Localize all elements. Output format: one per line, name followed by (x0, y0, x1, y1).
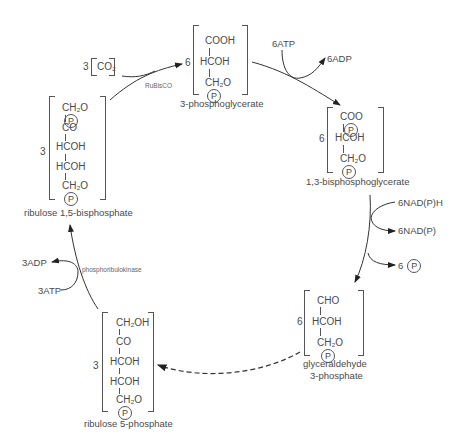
formula-text: COO (340, 111, 363, 122)
coefficient: 6 (319, 133, 325, 144)
bracket-left (102, 312, 108, 412)
bond (119, 348, 120, 354)
bond (343, 145, 344, 153)
bracket-right (378, 107, 384, 173)
bracket-left (193, 25, 199, 95)
bracket-right (242, 25, 248, 95)
bracket-right (358, 290, 364, 356)
bond (209, 69, 210, 77)
formula-line: HCOH (56, 161, 85, 173)
bracket-right (109, 58, 115, 76)
bond (343, 124, 344, 132)
formula-line: HCOH (110, 356, 139, 368)
molecule-name: ribulose 5-phosphate (84, 418, 173, 429)
molecule-name: 1,3-bisphosphoglycerate (306, 176, 410, 187)
cofactor-atp-in: 6ATP (272, 38, 295, 49)
bond (320, 328, 321, 336)
bond (119, 329, 120, 335)
pi-coefficient: 6 (398, 260, 403, 271)
bracket-left (304, 290, 310, 356)
bond (119, 368, 120, 374)
formula-line: CO (62, 122, 77, 134)
enzyme-phosphoribulokinase: phosphoribulokinase (82, 266, 142, 273)
formula-line: CO (116, 336, 131, 348)
cofactor-pi-out: 6P (398, 259, 421, 273)
formula-line: COOH (205, 35, 235, 47)
formula-text: CH₂O (62, 102, 88, 113)
coefficient: 3 (93, 360, 99, 371)
bond (65, 173, 66, 180)
cycle-arrows (0, 0, 460, 448)
formula-text: CH₂O (62, 180, 88, 191)
bracket-right (100, 96, 106, 200)
formula-text: CH₂O (317, 337, 343, 348)
co2-coefficient: 3 (83, 61, 89, 72)
bracket-left (327, 107, 333, 173)
formula-text: CH₂O (205, 77, 231, 88)
formula-line: CHO (317, 295, 339, 307)
formula-line: HCOH (335, 132, 364, 144)
bond (65, 134, 66, 141)
molecule-name-line2: 3-phosphate (310, 370, 363, 381)
formula-line: CH₂OP (116, 394, 142, 420)
phosphate-icon: P (64, 192, 78, 206)
bond (65, 115, 66, 122)
molecule-name-line1: glyceraldehyde (303, 358, 367, 369)
formula-line: HCOH (110, 376, 139, 388)
bond (209, 48, 210, 56)
coefficient: 6 (297, 316, 303, 327)
cofactor-adp-out: 6ADP (327, 53, 352, 64)
cofactor-nadp-out: 6NAD(P) (398, 225, 436, 236)
formula-text: CH₂O (116, 394, 142, 405)
cofactor-3atp-in: 3ATP (38, 285, 61, 296)
bond (320, 307, 321, 315)
coefficient: 3 (40, 146, 46, 157)
formula-line: CH₂OP (62, 180, 88, 206)
bond (65, 154, 66, 161)
molecule-name: ribulose 1,5-bisphosphate (24, 207, 133, 218)
coefficient: 6 (185, 57, 191, 68)
formula-line: CH₂OH (116, 317, 149, 329)
formula-line: HCOH (312, 316, 341, 328)
cofactor-nadph-in: 6NAD(P)H (398, 197, 443, 208)
bracket-left (49, 96, 55, 200)
formula-line: HCOH (200, 56, 229, 68)
formula-line: HCOH (56, 141, 85, 153)
formula-text: CH₂O (340, 153, 366, 164)
cofactor-3adp-out: 3ADP (22, 257, 47, 268)
molecule-name: 3-phosphoglycerate (180, 98, 263, 109)
enzyme-rubisco: RuBisCO (145, 82, 172, 89)
phosphate-icon: P (407, 259, 421, 273)
bracket-right (148, 312, 154, 412)
